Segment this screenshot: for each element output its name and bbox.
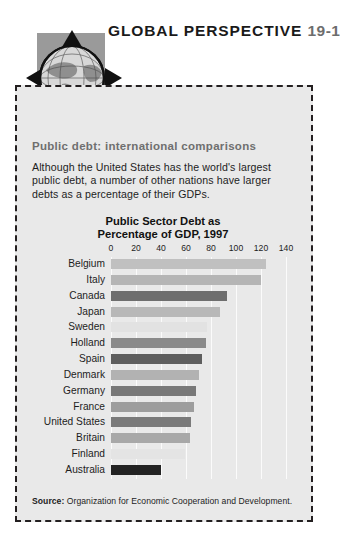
- chart-x-axis: 020406080100120140: [111, 243, 286, 257]
- category-label: Finland: [72, 448, 105, 459]
- chart-row: Spain: [111, 352, 286, 368]
- bar: [111, 354, 202, 364]
- source-note: Source: Organization for Economic Cooper…: [32, 496, 304, 506]
- category-label: United States: [44, 416, 105, 427]
- category-label: Spain: [79, 353, 105, 364]
- chart-title: Public Sector Debt as Percentage of GDP,…: [32, 215, 294, 241]
- x-axis-tick-label: 120: [254, 243, 268, 253]
- bar: [111, 402, 194, 412]
- category-label: France: [73, 401, 105, 412]
- chart-row: Belgium: [111, 257, 286, 273]
- chart-row: Sweden: [111, 320, 286, 336]
- category-label: Australia: [65, 464, 105, 475]
- page-title: GLOBAL PERSPECTIVE 19-1: [108, 22, 340, 40]
- bar: [111, 275, 261, 285]
- panel-body-text: Although the United States has the world…: [32, 161, 294, 201]
- page-title-number: 19-1: [307, 22, 340, 39]
- category-label: Germany: [63, 385, 105, 396]
- chart-row: Germany: [111, 384, 286, 400]
- x-axis-tick-label: 100: [229, 243, 243, 253]
- bar: [111, 307, 220, 317]
- category-label: Belgium: [68, 258, 105, 269]
- source-text: Organization for Economic Cooperation an…: [67, 496, 292, 506]
- gridline: [286, 257, 287, 479]
- chart-row: United States: [111, 415, 286, 431]
- bar: [111, 259, 266, 269]
- bar: [111, 449, 185, 459]
- chart-row: Holland: [111, 336, 286, 352]
- chart-row: Finland: [111, 447, 286, 463]
- chart-plot-area: BelgiumItalyCanadaJapanSwedenHollandSpai…: [111, 257, 286, 479]
- bar: [111, 433, 190, 443]
- chart-row: France: [111, 400, 286, 416]
- category-label: Italy: [86, 274, 105, 285]
- x-axis-tick-label: 0: [109, 243, 114, 253]
- x-axis-tick-label: 60: [181, 243, 191, 253]
- chart-row: Japan: [111, 305, 286, 321]
- bar: [111, 322, 207, 332]
- x-axis-tick-label: 40: [156, 243, 166, 253]
- chart-title-line-2: Percentage of GDP, 1997: [98, 228, 229, 240]
- bar-chart: 020406080100120140 BelgiumItalyCanadaJap…: [25, 243, 305, 488]
- chart-bar-rows: BelgiumItalyCanadaJapanSwedenHollandSpai…: [111, 257, 286, 479]
- x-axis-tick-label: 20: [131, 243, 141, 253]
- category-label: Holland: [70, 337, 105, 348]
- x-axis-tick-label: 80: [206, 243, 216, 253]
- source-label: Source:: [32, 496, 64, 506]
- chart-row: Britain: [111, 431, 286, 447]
- category-label: Britain: [76, 432, 105, 443]
- bar: [111, 370, 199, 380]
- panel-subtitle: Public debt: international comparisons: [32, 140, 256, 152]
- page-title-main: GLOBAL PERSPECTIVE: [108, 22, 302, 39]
- category-label: Japan: [77, 306, 105, 317]
- bar: [111, 291, 227, 301]
- category-label: Sweden: [68, 321, 105, 332]
- bar: [111, 465, 161, 475]
- chart-row: Denmark: [111, 368, 286, 384]
- x-axis-tick-label: 140: [279, 243, 293, 253]
- bar: [111, 386, 196, 396]
- chart-row: Canada: [111, 289, 286, 305]
- bar: [111, 417, 191, 427]
- chart-title-line-1: Public Sector Debt as: [105, 215, 220, 227]
- chart-row: Australia: [111, 463, 286, 479]
- bar: [111, 338, 206, 348]
- category-label: Denmark: [64, 369, 105, 380]
- category-label: Canada: [69, 290, 105, 301]
- chart-row: Italy: [111, 273, 286, 289]
